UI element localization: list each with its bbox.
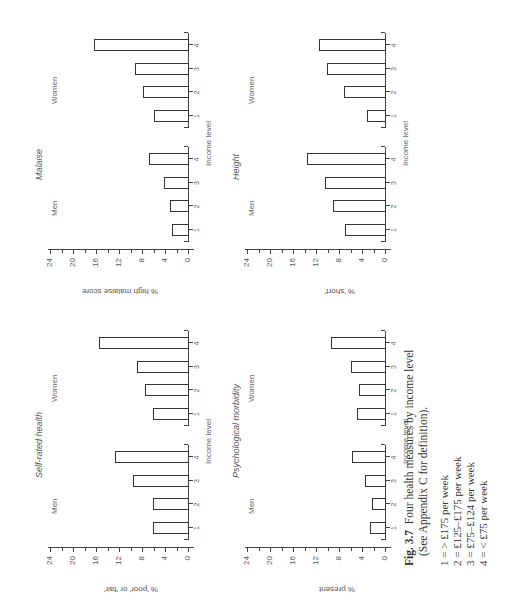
y-minor-tick	[131, 250, 132, 253]
y-minor-tick	[374, 548, 375, 551]
y-minor-tick	[154, 548, 155, 551]
y-tick-label: 16	[91, 556, 100, 576]
x-tick-label: 2	[193, 386, 200, 396]
x-tick-label: 2	[193, 202, 200, 212]
y-tick	[385, 548, 386, 552]
panel-psychological-morbidity: Psychological morbidityMenWomen048121620…	[225, 306, 425, 596]
y-minor-tick	[328, 250, 329, 253]
y-tick	[119, 548, 120, 552]
x-tick-label: 4	[193, 453, 200, 463]
y-tick-label: 12	[311, 556, 320, 576]
y-tick-label: 24	[242, 556, 251, 576]
x-tick-label: 4	[390, 41, 397, 51]
y-minor-tick	[85, 250, 86, 253]
men-bar-1	[345, 224, 386, 236]
y-minor-tick	[62, 250, 63, 253]
x-tick-label: 3	[193, 64, 200, 74]
y-tick	[247, 250, 248, 254]
x-edge-tick	[381, 241, 385, 242]
y-tick-label: 20	[68, 258, 77, 278]
y-tick-label: 12	[114, 258, 123, 278]
y-tick	[362, 548, 363, 552]
women-bar-3	[135, 63, 189, 75]
y-tick	[50, 250, 51, 254]
x-tick-label: 3	[390, 362, 397, 372]
women-label: Women	[50, 77, 59, 104]
panel-self-rated-health: Self-rated healthMenWomen04812162024% 'p…	[28, 306, 228, 596]
women-bar-3	[137, 361, 189, 373]
women-bar-3	[351, 361, 387, 373]
x-axis-title: Income level	[204, 419, 213, 464]
y-minor-tick	[259, 250, 260, 253]
men-label: Men	[50, 498, 59, 514]
caption-title-line: Fig. 3.7 Four health measures by income …	[402, 286, 416, 566]
x-tick-label: 4	[390, 155, 397, 165]
x-tick-label: 3	[193, 476, 200, 486]
x-tick-label: 4	[390, 339, 397, 349]
y-minor-tick	[131, 548, 132, 551]
y-tick-label: 20	[265, 258, 274, 278]
x-tick-label: 2	[193, 500, 200, 510]
men-bar-3	[164, 177, 189, 189]
y-tick-label: 24	[242, 258, 251, 278]
y-tick	[165, 548, 166, 552]
y-minor-tick	[108, 250, 109, 253]
x-edge-tick	[381, 445, 385, 446]
y-tick	[293, 548, 294, 552]
men-bar-4	[115, 452, 189, 464]
x-tick-label: 3	[390, 64, 397, 74]
y-minor-tick	[177, 548, 178, 551]
men-bar-1	[172, 224, 189, 236]
panel-malaise: MalaiseMenWomen04812162024% high malaise…	[28, 8, 228, 298]
x-axis-title: Income level	[204, 121, 213, 166]
y-tick-label: 24	[45, 556, 54, 576]
y-minor-tick	[177, 250, 178, 253]
x-tick-label: 4	[193, 41, 200, 51]
women-bar-4	[319, 40, 386, 52]
men-bar-2	[333, 201, 386, 213]
y-tick	[142, 250, 143, 254]
y-tick-label: 0	[380, 258, 389, 278]
y-axis-title: % high malaise score	[82, 287, 158, 296]
x-edge-tick	[184, 147, 188, 148]
y-tick-label: 8	[137, 556, 146, 576]
x-tick-label: 2	[390, 386, 397, 396]
x-edge-tick	[184, 241, 188, 242]
x-tick-label: 2	[193, 88, 200, 98]
y-tick	[270, 250, 271, 254]
x-edge-tick	[184, 331, 188, 332]
y-minor-tick	[282, 250, 283, 253]
x-edge-tick	[184, 127, 188, 128]
y-tick-label: 4	[357, 258, 366, 278]
rotated-book-page: Self-rated healthMenWomen04812162024% 'p…	[0, 0, 521, 606]
y-tick	[316, 548, 317, 552]
y-minor-tick	[154, 250, 155, 253]
x-tick-label: 3	[390, 476, 397, 486]
men-label: Men	[50, 200, 59, 216]
men-bar-3	[133, 475, 189, 487]
y-minor-tick	[259, 548, 260, 551]
x-tick-label: 3	[193, 178, 200, 188]
y-axis-line	[48, 249, 194, 250]
y-axis-line	[48, 547, 194, 548]
y-minor-tick	[351, 548, 352, 551]
x-tick-label: 2	[390, 500, 397, 510]
y-tick-label: 24	[45, 258, 54, 278]
x-tick-label: 1	[390, 409, 397, 419]
panel-title: Psychological morbidity	[231, 384, 241, 478]
y-tick	[339, 548, 340, 552]
panel-height: HeightMenWomen04812162024% 'short'123412…	[225, 8, 425, 298]
men-bar-1	[153, 522, 189, 534]
y-tick-label: 20	[68, 556, 77, 576]
figure-label: Fig. 3.7	[403, 530, 415, 566]
y-tick-label: 12	[114, 556, 123, 576]
y-tick	[339, 250, 340, 254]
women-bar-4	[99, 338, 189, 350]
y-tick-label: 0	[183, 258, 192, 278]
y-minor-tick	[351, 250, 352, 253]
women-bar-1	[154, 110, 190, 122]
women-bar-4	[94, 40, 189, 52]
x-tick-label: 3	[193, 362, 200, 372]
men-bar-1	[370, 522, 386, 534]
x-edge-tick	[381, 33, 385, 34]
